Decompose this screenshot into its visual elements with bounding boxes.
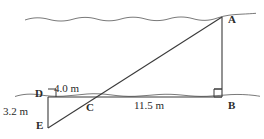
lower-water-line: [15, 94, 260, 97]
length-label-de: 3.2 m: [3, 106, 28, 117]
point-label-e: E: [36, 120, 43, 131]
point-label-b: B: [228, 100, 235, 111]
length-label-cb: 11.5 m: [134, 100, 164, 111]
point-label-d: D: [35, 88, 43, 99]
point-label-c: C: [86, 102, 94, 113]
length-label-dc: 4.0 m: [54, 83, 79, 94]
point-label-a: A: [228, 14, 236, 25]
geometry-diagram: A B C D E 4.0 m 11.5 m 3.2 m: [0, 0, 264, 139]
segment-EA: [48, 17, 222, 128]
